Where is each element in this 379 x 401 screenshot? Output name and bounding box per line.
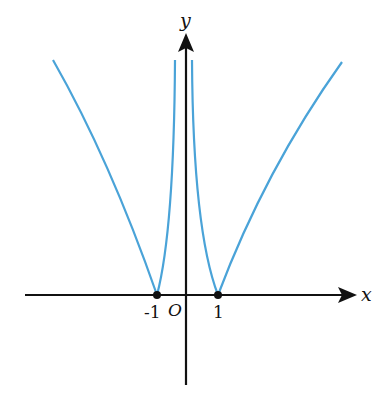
origin-label: O	[168, 300, 182, 320]
y-axis-label: y	[179, 9, 191, 31]
x-axis-label: x	[361, 283, 372, 305]
curve-left-inner	[157, 60, 175, 295]
curve-left-outer	[53, 60, 157, 295]
tick-label-neg-one: -1	[144, 302, 161, 322]
function-graph: y x O -1 1	[0, 0, 379, 401]
curve-right-inner	[192, 60, 218, 295]
point-one	[214, 291, 222, 299]
point-neg-one	[153, 291, 161, 299]
tick-label-one: 1	[213, 302, 224, 322]
curve-right-outer	[218, 62, 342, 295]
